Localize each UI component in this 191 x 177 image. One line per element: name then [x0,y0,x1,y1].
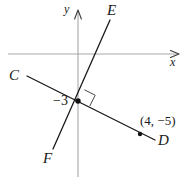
x-axis-label: x [170,56,175,68]
coordinate-label: (4, −5) [140,114,176,127]
coordinate-point-marker [138,132,142,136]
point-label-e: E [107,3,116,18]
geometry-figure: y x C D E F −3 (4, −5) [0,0,191,177]
line-cd [27,76,155,140]
right-angle-marker-icon [84,90,95,106]
figure-canvas [0,0,191,177]
y-axis-label: y [64,3,69,15]
y-intercept-label: −3 [53,94,68,108]
point-label-f: F [43,151,52,166]
point-label-d: D [158,133,169,148]
intersection-point-marker [75,98,80,103]
line-ef [53,20,110,149]
point-label-c: C [9,68,19,83]
